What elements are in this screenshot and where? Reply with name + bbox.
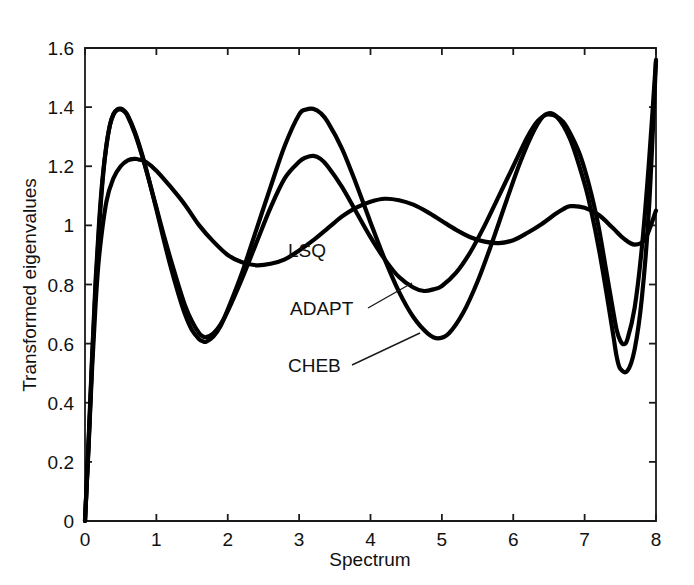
series-label-lsq: LSQ bbox=[288, 240, 326, 261]
y-tick-label-1: 0.2 bbox=[48, 452, 74, 473]
x-tick-label-1: 1 bbox=[151, 529, 162, 550]
curve-adapt bbox=[85, 60, 656, 521]
axis-frame bbox=[85, 48, 656, 521]
figure-container: 012345678 00.20.40.60.811.21.41.6 LSQADA… bbox=[0, 0, 694, 585]
axes-group bbox=[85, 48, 656, 521]
y-tick-label-3: 0.6 bbox=[48, 334, 74, 355]
y-tick-label-5: 1 bbox=[63, 215, 74, 236]
y-tick-labels: 00.20.40.60.811.21.41.6 bbox=[48, 38, 75, 532]
leader-line-cheb bbox=[352, 333, 420, 365]
x-tick-label-5: 5 bbox=[437, 529, 448, 550]
x-axis-title: Spectrum bbox=[329, 549, 410, 570]
x-tick-label-0: 0 bbox=[80, 529, 91, 550]
x-tick-label-2: 2 bbox=[222, 529, 233, 550]
x-tick-label-4: 4 bbox=[365, 529, 376, 550]
y-tick-label-7: 1.4 bbox=[48, 97, 75, 118]
y-tick-label-4: 0.8 bbox=[48, 275, 74, 296]
chart-canvas: 012345678 00.20.40.60.811.21.41.6 LSQADA… bbox=[0, 0, 694, 585]
y-tick-label-0: 0 bbox=[63, 511, 74, 532]
x-tick-label-8: 8 bbox=[651, 529, 662, 550]
x-tick-labels: 012345678 bbox=[80, 529, 662, 550]
y-axis-title: Transformed eigenvalues bbox=[19, 178, 40, 392]
y-tick-label-2: 0.4 bbox=[48, 393, 75, 414]
series-label-adapt: ADAPT bbox=[290, 298, 354, 319]
series-annotations: LSQADAPTCHEB bbox=[288, 240, 354, 376]
y-tick-label-8: 1.6 bbox=[48, 38, 74, 59]
curve-lsq bbox=[85, 159, 656, 521]
x-tick-label-7: 7 bbox=[579, 529, 590, 550]
tick-marks-group bbox=[85, 48, 656, 521]
x-tick-label-3: 3 bbox=[294, 529, 305, 550]
x-tick-label-6: 6 bbox=[508, 529, 519, 550]
annotation-leader-lines bbox=[352, 283, 420, 365]
data-curves-group bbox=[85, 60, 656, 521]
y-tick-label-6: 1.2 bbox=[48, 156, 74, 177]
series-label-cheb: CHEB bbox=[288, 355, 341, 376]
